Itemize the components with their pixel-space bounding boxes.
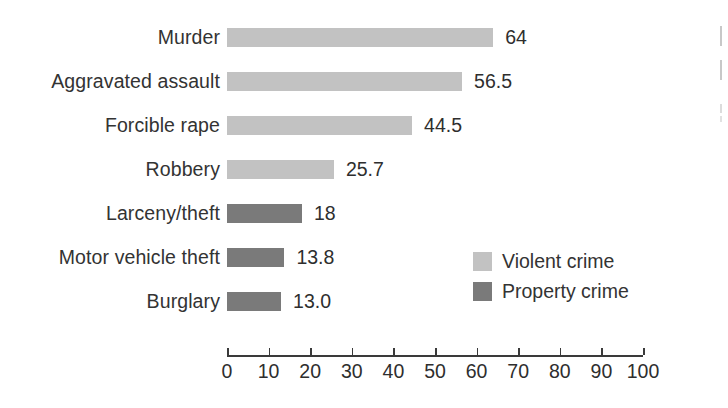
- chart-row: Aggravated assault56.5: [0, 66, 728, 96]
- bar: [227, 204, 302, 223]
- axis-tick-label: 90: [579, 360, 623, 383]
- legend-swatch-icon: [473, 252, 492, 271]
- legend-swatch-icon: [473, 282, 492, 301]
- legend-label: Violent crime: [502, 250, 614, 273]
- bar-value-label: 18: [314, 198, 336, 228]
- axis-tick-label: 40: [371, 360, 415, 383]
- bar-value-label: 64: [505, 22, 527, 52]
- axis-tick: [518, 348, 520, 355]
- axis-tick-label: 10: [247, 360, 291, 383]
- category-label: Larceny/theft: [0, 198, 220, 228]
- bar: [227, 116, 412, 135]
- legend-item: Property crime: [473, 276, 629, 306]
- legend-label: Property crime: [502, 280, 629, 303]
- bar-value-label: 13.0: [293, 286, 331, 316]
- category-label: Murder: [0, 22, 220, 52]
- category-label: Burglary: [0, 286, 220, 316]
- axis-tick-label: 100: [621, 360, 665, 383]
- axis-tick-label: 0: [205, 360, 249, 383]
- category-label: Aggravated assault: [0, 66, 220, 96]
- chart-row: Murder64: [0, 22, 728, 52]
- bar-value-label: 56.5: [474, 66, 512, 96]
- bar: [227, 292, 281, 311]
- axis-tick: [352, 348, 354, 355]
- axis-tick: [227, 348, 229, 355]
- chart-row: Forcible rape44.5: [0, 110, 728, 140]
- bar-value-label: 25.7: [346, 154, 384, 184]
- axis-tick: [310, 348, 312, 355]
- category-label: Motor vehicle theft: [0, 242, 220, 272]
- chart-row: Larceny/theft18: [0, 198, 728, 228]
- bar-value-label: 13.8: [296, 242, 334, 272]
- bar: [227, 28, 493, 47]
- bar: [227, 160, 334, 179]
- axis-tick: [601, 348, 603, 355]
- chart-row: Robbery25.7: [0, 154, 728, 184]
- bar: [227, 72, 462, 91]
- axis-tick-label: 60: [455, 360, 499, 383]
- legend-item: Violent crime: [473, 246, 629, 276]
- axis-tick: [560, 348, 562, 355]
- x-axis: [227, 355, 643, 357]
- axis-tick: [269, 348, 271, 355]
- axis-tick-label: 50: [413, 360, 457, 383]
- axis-tick-label: 30: [330, 360, 374, 383]
- bar: [227, 248, 284, 267]
- axis-tick-label: 70: [496, 360, 540, 383]
- bar-value-label: 44.5: [424, 110, 462, 140]
- axis-tick: [477, 348, 479, 355]
- axis-tick-label: 80: [538, 360, 582, 383]
- axis-tick-label: 20: [288, 360, 332, 383]
- chart-legend: Violent crimeProperty crime: [473, 246, 629, 306]
- category-label: Forcible rape: [0, 110, 220, 140]
- axis-tick: [643, 348, 645, 355]
- category-label: Robbery: [0, 154, 220, 184]
- bar-chart: Murder64Aggravated assault56.5Forcible r…: [0, 0, 728, 408]
- axis-tick: [393, 348, 395, 355]
- axis-tick: [435, 348, 437, 355]
